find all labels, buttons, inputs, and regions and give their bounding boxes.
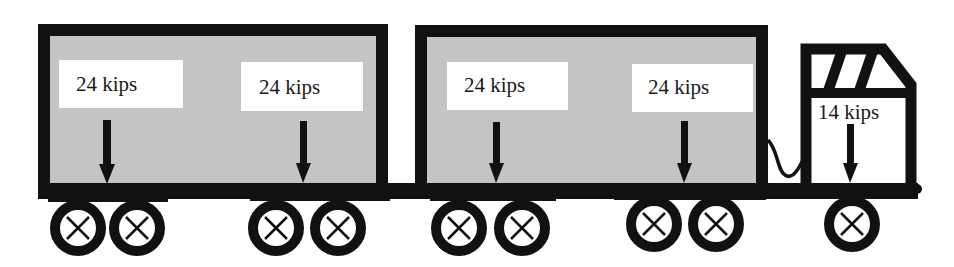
wheel-icon	[55, 205, 101, 251]
load-label-trailer2-front: 24 kips	[648, 75, 709, 99]
wheel-icon	[436, 205, 482, 251]
load-label-trailer1-front: 24 kips	[259, 75, 320, 99]
wheels	[55, 201, 875, 251]
wheel-icon	[315, 205, 361, 251]
wheel-icon	[253, 205, 299, 251]
wheel-icon	[829, 201, 875, 247]
bogie-trailer2-front	[614, 190, 766, 200]
wheel-icon	[499, 205, 545, 251]
bogie-trailer2-rear	[430, 190, 556, 201]
air-hose	[768, 140, 803, 176]
load-label-trailer1-rear: 24 kips	[76, 72, 137, 96]
bogie-trailer1-rear	[48, 190, 168, 202]
wheel-icon	[693, 201, 739, 247]
truck-load-diagram: 24 kips 24 kips 24 kips 24 kips 14 kips	[0, 0, 954, 267]
wheel-icon	[114, 205, 160, 251]
bogie-trailer1-front	[250, 190, 390, 201]
frame-end-cap	[912, 184, 922, 194]
load-label-cab-steer: 14 kips	[818, 100, 879, 124]
load-label-trailer2-rear: 24 kips	[464, 73, 525, 97]
wheel-icon	[631, 201, 677, 247]
